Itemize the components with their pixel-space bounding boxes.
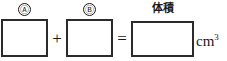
circled-label-a: Ⓐ bbox=[18, 3, 31, 16]
circled-label-b: Ⓑ bbox=[83, 3, 96, 16]
equals-operator: = bbox=[115, 30, 129, 47]
answer-box-a[interactable] bbox=[1, 19, 48, 57]
volume-caption: 体積 bbox=[131, 2, 194, 15]
unit-base: cm bbox=[196, 33, 214, 49]
unit-exponent: 3 bbox=[214, 32, 219, 42]
plus-operator: + bbox=[50, 30, 64, 47]
volume-equation: Ⓐ + Ⓑ = 体積 cm3 bbox=[0, 0, 227, 61]
answer-box-b[interactable] bbox=[66, 19, 113, 57]
unit-label: cm3 bbox=[196, 34, 219, 49]
answer-box-sum[interactable] bbox=[131, 21, 194, 57]
